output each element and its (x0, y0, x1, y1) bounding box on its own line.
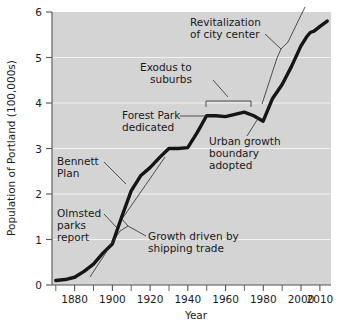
x-tick-label-1940: 1940 (174, 293, 201, 305)
x-tick-label-1900: 1900 (99, 293, 126, 305)
x-axis-ticks (56, 285, 320, 291)
y-axis-title: Population of Portland (100,000s) (5, 60, 17, 236)
annotation-exodus-line1: Exodus to (140, 61, 192, 73)
annotation-forest-park-line2: dedicated (122, 121, 174, 133)
population-line-chart: 6 5 4 3 2 1 0 1880 1900 1920 1940 (0, 0, 343, 324)
y-axis-ticks (46, 12, 52, 285)
annotation-forest-park-line1: Forest Park (122, 109, 181, 121)
y-tick-label-4: 4 (35, 97, 42, 109)
annotation-urban-growth-line2: boundary (209, 147, 259, 159)
y-tick-label-1: 1 (35, 234, 42, 246)
x-tick-label-1880: 1880 (61, 293, 88, 305)
y-tick-label-3: 3 (35, 143, 42, 155)
y-tick-label-6: 6 (35, 6, 42, 18)
x-tick-label-1960: 1960 (212, 293, 239, 305)
annotation-olmsted-line1: Olmsted (57, 207, 101, 219)
annotation-bennett-line1: Bennett (57, 155, 99, 167)
y-tick-label-5: 5 (35, 52, 42, 64)
annotation-revitalization-line2: of city center (190, 28, 260, 40)
chart-figure: 6 5 4 3 2 1 0 1880 1900 1920 1940 (0, 0, 343, 324)
x-tick-label-2010: 2010 (307, 293, 334, 305)
annotation-shipping-line1: Growth driven by (148, 230, 239, 242)
x-tick-label-1980: 1980 (250, 293, 277, 305)
annotation-olmsted-line2: parks (57, 219, 86, 231)
annotation-urban-growth-line3: adopted (209, 159, 252, 171)
annotation-exodus-line2: suburbs (150, 73, 192, 85)
annotation-revitalization-line1: Revitalization (190, 16, 261, 28)
y-tick-label-2: 2 (35, 188, 42, 200)
y-tick-label-0: 0 (35, 279, 42, 291)
annotation-olmsted-line3: report (57, 231, 89, 243)
annotation-shipping-line2: shipping trade (148, 242, 224, 254)
x-tick-label-1920: 1920 (137, 293, 164, 305)
x-axis-title: Year (184, 309, 208, 321)
annotation-urban-growth-line1: Urban growth (209, 135, 281, 147)
annotation-bennett-line2: Plan (57, 167, 79, 179)
